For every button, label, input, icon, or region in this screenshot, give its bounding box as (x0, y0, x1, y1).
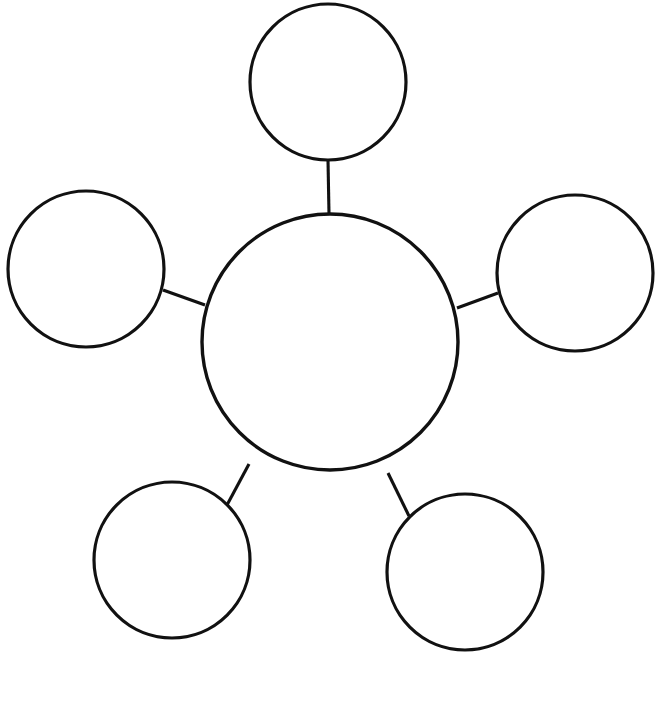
node-top-circle[interactable] (250, 4, 406, 160)
connector-right (457, 293, 498, 308)
node-bottom-right-circle[interactable] (387, 494, 543, 650)
node-bottom-left[interactable] (94, 482, 250, 638)
node-right-circle[interactable] (497, 195, 653, 351)
node-top[interactable] (250, 4, 406, 160)
worksheet-page: © Copyright (0, 0, 667, 711)
center-node[interactable] (202, 214, 458, 470)
connector-bottom-right (388, 473, 409, 516)
node-right[interactable] (497, 195, 653, 351)
connector-bottom-left (227, 464, 249, 505)
connector-left (163, 290, 205, 305)
connector-top (328, 160, 329, 214)
spider-concept-map-diagram (0, 0, 667, 711)
node-left-circle[interactable] (8, 191, 164, 347)
center-node-circle[interactable] (202, 214, 458, 470)
node-left[interactable] (8, 191, 164, 347)
node-bottom-left-circle[interactable] (94, 482, 250, 638)
node-bottom-right[interactable] (387, 494, 543, 650)
